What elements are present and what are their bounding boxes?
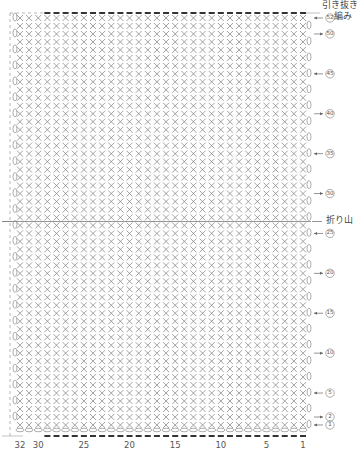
- fold-label: 折り山: [326, 216, 353, 225]
- crochet-chart: [0, 0, 358, 456]
- row-label-5: 5: [328, 390, 332, 396]
- row-label-10: 10: [327, 350, 334, 356]
- row-label-2: 2: [328, 414, 332, 420]
- row-label-30: 30: [327, 191, 334, 197]
- row-label-35: 35: [327, 151, 334, 157]
- stitch-count-15: 15: [170, 441, 181, 450]
- row-label-25: 25: [327, 230, 334, 236]
- row-label-50: 50: [327, 31, 334, 37]
- stitch-count-5: 5: [264, 441, 269, 450]
- stitch-count-10: 10: [215, 441, 226, 450]
- stitch-count-25: 25: [78, 441, 89, 450]
- row-label-20: 20: [327, 270, 334, 276]
- stitch-count-20: 20: [124, 441, 135, 450]
- stitch-count-1: 1: [300, 441, 305, 450]
- stitch-count-30: 30: [33, 441, 44, 450]
- row-label-15: 15: [327, 310, 334, 316]
- row-label-1: 1: [328, 422, 332, 428]
- row-label-45: 45: [327, 71, 334, 77]
- slip-stitch-label-line2: 編み: [334, 12, 352, 21]
- row-label-52: 52: [327, 15, 334, 21]
- slip-stitch-label-line1: 引き抜き: [322, 1, 358, 10]
- stitch-count-32: 32: [15, 441, 26, 450]
- row-label-40: 40: [327, 111, 334, 117]
- slip-stitch-chains: [44, 13, 306, 436]
- stitch-grid: [13, 13, 311, 432]
